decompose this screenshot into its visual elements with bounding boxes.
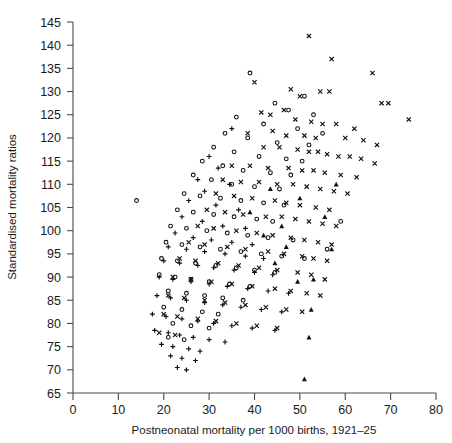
data-point-triangle bbox=[268, 186, 273, 191]
data-point-circle bbox=[189, 324, 193, 328]
data-point-plus bbox=[229, 240, 234, 245]
data-point-cross bbox=[332, 189, 336, 193]
data-point-plus bbox=[207, 154, 212, 159]
data-point-circle bbox=[291, 238, 295, 242]
data-point-cross bbox=[268, 113, 272, 117]
data-point-cross bbox=[264, 215, 268, 219]
data-point-plus bbox=[195, 263, 200, 268]
data-point-plus bbox=[180, 214, 185, 219]
data-point-cross bbox=[282, 108, 286, 112]
data-point-circle bbox=[164, 240, 168, 244]
data-point-circle bbox=[266, 236, 270, 240]
data-point-cross bbox=[314, 205, 318, 209]
data-point-cross bbox=[202, 243, 206, 247]
data-point-cross bbox=[305, 291, 309, 295]
data-point-plus bbox=[170, 277, 175, 282]
data-point-triangle bbox=[261, 233, 266, 238]
data-point-cross bbox=[296, 270, 300, 274]
data-point-plus bbox=[220, 224, 225, 229]
data-point-circle bbox=[171, 322, 175, 326]
data-point-plus bbox=[266, 289, 271, 294]
data-point-cross bbox=[223, 210, 227, 214]
data-point-cross bbox=[273, 287, 277, 291]
data-point-cross bbox=[162, 312, 166, 316]
data-point-plus bbox=[180, 316, 185, 321]
data-point-plus bbox=[211, 265, 216, 270]
data-point-cross bbox=[243, 247, 247, 251]
data-point-circle bbox=[216, 312, 220, 316]
y-axis: 6570758085909510010511011512012513013514… bbox=[40, 16, 73, 401]
data-point-plus bbox=[223, 251, 228, 256]
data-point-cross bbox=[182, 296, 186, 300]
y-tick-label: 125 bbox=[40, 108, 61, 122]
x-tick-label: 70 bbox=[384, 403, 398, 417]
data-point-plus bbox=[243, 226, 248, 231]
data-point-plus bbox=[279, 309, 284, 314]
data-point-cross bbox=[298, 203, 302, 207]
data-point-cross bbox=[273, 198, 277, 202]
data-point-plus bbox=[191, 235, 196, 240]
data-point-cross bbox=[323, 277, 327, 281]
data-point-circle bbox=[280, 254, 284, 258]
data-point-cross bbox=[289, 87, 293, 91]
data-point-cross bbox=[334, 122, 338, 126]
data-point-triangle bbox=[322, 214, 327, 219]
data-point-cross bbox=[252, 80, 256, 84]
data-point-circle bbox=[135, 199, 139, 203]
data-point-circle bbox=[191, 173, 195, 177]
data-point-plus bbox=[250, 326, 255, 331]
data-point-cross bbox=[375, 143, 379, 147]
data-point-cross bbox=[327, 208, 331, 212]
data-point-cross bbox=[354, 175, 358, 179]
data-point-triangle bbox=[295, 279, 300, 284]
data-point-circle bbox=[221, 164, 225, 168]
data-point-plus bbox=[259, 307, 264, 312]
data-point-plus bbox=[186, 347, 191, 352]
data-point-cross bbox=[280, 215, 284, 219]
data-point-cross bbox=[255, 231, 259, 235]
y-tick-label: 135 bbox=[40, 62, 61, 76]
data-point-cross bbox=[330, 57, 334, 61]
data-point-cross bbox=[293, 217, 297, 221]
data-point-cross bbox=[300, 310, 304, 314]
x-tick-label: 20 bbox=[157, 403, 171, 417]
data-point-cross bbox=[334, 224, 338, 228]
x-tick-label: 80 bbox=[429, 403, 443, 417]
data-point-triangle bbox=[306, 335, 311, 340]
data-point-cross bbox=[379, 101, 383, 105]
figure-container: 6570758085909510010511011512012513013514… bbox=[0, 0, 452, 443]
data-point-cross bbox=[264, 305, 268, 309]
data-point-circle bbox=[234, 266, 238, 270]
data-point-plus bbox=[245, 286, 250, 291]
series-triangle bbox=[247, 182, 338, 381]
data-point-circle bbox=[200, 310, 204, 314]
data-point-plus bbox=[261, 256, 266, 261]
data-point-cross bbox=[305, 185, 309, 189]
data-point-circle bbox=[182, 338, 186, 342]
data-point-cross bbox=[361, 138, 365, 142]
data-point-plus bbox=[250, 242, 255, 247]
data-point-circle bbox=[166, 335, 170, 339]
data-point-circle bbox=[180, 243, 184, 247]
data-point-cross bbox=[275, 326, 279, 330]
data-point-cross bbox=[370, 71, 374, 75]
data-point-cross bbox=[407, 117, 411, 121]
data-point-circle bbox=[223, 131, 227, 135]
data-point-triangle bbox=[284, 244, 289, 249]
data-point-circle bbox=[214, 264, 218, 268]
data-point-cross bbox=[214, 319, 218, 323]
data-point-cross bbox=[289, 289, 293, 293]
data-point-cross bbox=[373, 161, 377, 165]
data-point-cross bbox=[257, 266, 261, 270]
data-point-cross bbox=[309, 273, 313, 277]
data-point-cross bbox=[275, 182, 279, 186]
data-point-cross bbox=[277, 145, 281, 149]
scatter-plot: 6570758085909510010511011512012513013514… bbox=[0, 0, 452, 443]
data-point-plus bbox=[236, 207, 241, 212]
data-point-cross bbox=[311, 256, 315, 260]
y-tick-label: 110 bbox=[41, 178, 61, 192]
y-tick-label: 95 bbox=[47, 247, 61, 261]
data-point-cross bbox=[271, 233, 275, 237]
data-point-circle bbox=[307, 143, 311, 147]
data-point-cross bbox=[284, 307, 288, 311]
